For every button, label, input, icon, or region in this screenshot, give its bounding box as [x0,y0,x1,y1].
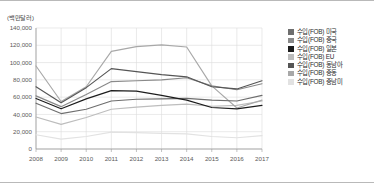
y-axis-tick-label: 40,000 [13,111,32,118]
legend-label: 수입(FOB) EU [297,54,335,60]
legend-label: 수입(FOB) 미국 [297,29,338,35]
legend-item[interactable]: 수입(FOB) 미국 [288,29,343,35]
x-axis-tick-label: 2017 [255,155,269,162]
y-axis-tick-label: 140,000 [10,24,33,31]
x-axis-tick-label: 2012 [130,155,144,162]
x-axis-tick-label: 2013 [155,155,169,162]
y-axis-tick-label: 100,000 [10,59,33,66]
series-line [36,45,262,108]
legend-label: 수입(FOB) 중남미 [297,79,343,85]
x-axis-tick-label: 2015 [205,155,219,162]
legend-swatch [288,46,294,52]
legend-label: 수입(FOB) 중동 [297,70,338,76]
x-axis-tick-label: 2010 [79,155,93,162]
y-axis-tick-label: 20,000 [13,128,32,135]
legend-label: 수입(FOB) 일본 [297,46,338,52]
series-line [36,69,262,103]
legend-swatch [288,29,294,35]
series-line [36,78,262,107]
chart-legend: 수입(FOB) 미국수입(FOB) 중국수입(FOB) 일본수입(FOB) EU… [288,29,343,85]
legend-swatch [288,71,294,77]
legend-swatch [288,79,294,85]
legend-swatch [288,63,294,69]
legend-swatch [288,54,294,60]
series-line [36,132,262,139]
x-axis-tick-label: 2016 [230,155,244,162]
legend-item[interactable]: 수입(FOB) EU [288,54,343,60]
y-axis-tick-label: 80,000 [13,76,32,83]
series-line [36,101,262,124]
legend-item[interactable]: 수입(FOB) 중남미 [288,79,343,85]
x-axis-tick-label: 2011 [105,155,119,162]
chart-card: (백만달러) 020,00040,00060,00080,000100,0001… [0,0,374,183]
y-axis-tick-label: 120,000 [10,41,33,48]
legend-swatch [288,38,294,44]
legend-item[interactable]: 수입(FOB) 중국 [288,37,343,43]
legend-label: 수입(FOB) 동남아 [297,62,343,68]
x-axis-tick-label: 2008 [29,155,43,162]
x-axis-tick-label: 2009 [54,155,68,162]
y-axis-tick-label: 0 [29,145,33,152]
x-axis-tick-label: 2014 [180,155,194,162]
legend-item[interactable]: 수입(FOB) 동남아 [288,62,343,68]
y-axis-tick-label: 60,000 [13,93,32,100]
legend-item[interactable]: 수입(FOB) 일본 [288,46,343,52]
legend-label: 수입(FOB) 중국 [297,37,338,43]
legend-item[interactable]: 수입(FOB) 중동 [288,70,343,76]
